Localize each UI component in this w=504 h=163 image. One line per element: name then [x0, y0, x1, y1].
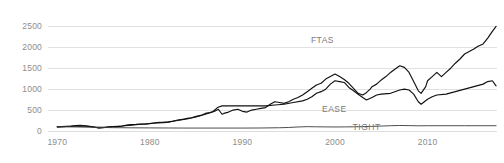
series-line-ftas: [57, 26, 496, 128]
x-axis-tick-1990: 1990: [222, 137, 262, 147]
y-axis-tick-1000: 1000: [0, 84, 42, 94]
series-label-ease: EASE: [322, 104, 347, 114]
x-axis-tick-2010: 2010: [408, 137, 448, 147]
series-label-ftas: FTAS: [311, 35, 334, 45]
x-axis-tick-1980: 1980: [130, 137, 170, 147]
y-axis-tick-2000: 2000: [0, 42, 42, 52]
x-axis-tick-2000: 2000: [315, 137, 355, 147]
series-label-tight: TIGHT: [353, 122, 381, 132]
y-axis-tick-1500: 1500: [0, 63, 42, 73]
y-axis-tick-0: 0: [0, 126, 42, 136]
x-axis-tick-1970: 1970: [37, 137, 77, 147]
series-paths: [57, 26, 496, 128]
series-line-ease: [57, 81, 496, 128]
chart-container: 05001000150020002500 1970198019902000201…: [0, 0, 504, 163]
y-axis-tick-500: 500: [0, 105, 42, 115]
y-axis-tick-2500: 2500: [0, 21, 42, 31]
